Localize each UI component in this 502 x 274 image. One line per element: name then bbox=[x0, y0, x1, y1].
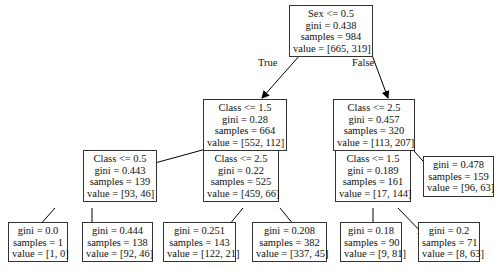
tree-node: Class <= 2.5 gini = 0.22 samples = 525 v… bbox=[203, 150, 279, 202]
tree-node-leaf: gini = 0.208 samples = 382 value = [337,… bbox=[252, 222, 327, 262]
node-samples: samples = 159 bbox=[427, 171, 490, 183]
tree-node-leaf: gini = 0.2 samples = 71 value = [8, 63] bbox=[418, 222, 480, 262]
tree-node-leaf: gini = 0.444 samples = 138 value = [92, … bbox=[82, 222, 153, 262]
node-samples: samples = 1 bbox=[12, 237, 64, 249]
node-gini: gini = 0.2 bbox=[422, 225, 476, 237]
node-samples: samples = 138 bbox=[86, 237, 149, 249]
node-gini: gini = 0.478 bbox=[427, 159, 490, 171]
tree-node: Class <= 2.5 gini = 0.457 samples = 320 … bbox=[333, 99, 415, 151]
node-samples: samples = 664 bbox=[207, 125, 283, 137]
node-split: Sex <= 0.5 bbox=[293, 8, 369, 20]
node-value: value = [459, 66] bbox=[207, 188, 275, 200]
edge-label-true: True bbox=[258, 57, 277, 68]
node-gini: gini = 0.208 bbox=[256, 225, 323, 237]
node-gini: gini = 0.443 bbox=[87, 165, 153, 177]
node-value: value = [665, 319] bbox=[293, 43, 369, 55]
tree-node-leaf: gini = 0.18 samples = 90 value = [9, 81] bbox=[340, 222, 402, 262]
node-samples: samples = 71 bbox=[422, 237, 476, 249]
node-value: value = [552, 112] bbox=[207, 137, 283, 149]
node-value: value = [17, 144] bbox=[339, 188, 407, 200]
tree-node: Class <= 1.5 gini = 0.28 samples = 664 v… bbox=[203, 99, 287, 151]
node-gini: gini = 0.28 bbox=[207, 114, 283, 126]
node-split: Class <= 2.5 bbox=[337, 102, 411, 114]
node-value: value = [337, 45] bbox=[256, 248, 323, 260]
node-gini: gini = 0.444 bbox=[86, 225, 149, 237]
node-split: Class <= 2.5 bbox=[207, 153, 275, 165]
node-gini: gini = 0.438 bbox=[293, 20, 369, 32]
node-gini: gini = 0.0 bbox=[12, 225, 64, 237]
tree-node-leaf: gini = 0.0 samples = 1 value = [1, 0] bbox=[8, 222, 68, 262]
node-split: Class <= 0.5 bbox=[87, 153, 153, 165]
node-value: value = [122, 21] bbox=[167, 248, 232, 260]
node-samples: samples = 143 bbox=[167, 237, 232, 249]
tree-node-leaf: gini = 0.478 samples = 159 value = [96, … bbox=[423, 156, 494, 197]
node-value: value = [96, 63] bbox=[427, 182, 490, 194]
node-samples: samples = 320 bbox=[337, 125, 411, 137]
edge-label-false: False bbox=[352, 57, 374, 68]
node-samples: samples = 90 bbox=[344, 237, 398, 249]
node-samples: samples = 161 bbox=[339, 176, 407, 188]
node-value: value = [1, 0] bbox=[12, 248, 64, 260]
node-gini: gini = 0.457 bbox=[337, 114, 411, 126]
node-gini: gini = 0.22 bbox=[207, 165, 275, 177]
node-value: value = [113, 207] bbox=[337, 137, 411, 149]
node-split: Class <= 1.5 bbox=[339, 153, 407, 165]
tree-node-root: Sex <= 0.5 gini = 0.438 samples = 984 va… bbox=[289, 5, 373, 57]
node-value: value = [9, 81] bbox=[344, 248, 398, 260]
node-samples: samples = 984 bbox=[293, 31, 369, 43]
node-gini: gini = 0.251 bbox=[167, 225, 232, 237]
node-samples: samples = 139 bbox=[87, 176, 153, 188]
node-value: value = [8, 63] bbox=[422, 248, 476, 260]
tree-node: Class <= 1.5 gini = 0.189 samples = 161 … bbox=[335, 150, 411, 202]
node-samples: samples = 525 bbox=[207, 176, 275, 188]
node-gini: gini = 0.189 bbox=[339, 165, 407, 177]
node-gini: gini = 0.18 bbox=[344, 225, 398, 237]
node-value: value = [92, 46] bbox=[86, 248, 149, 260]
tree-node-leaf: gini = 0.251 samples = 143 value = [122,… bbox=[163, 222, 236, 262]
node-value: value = [93, 46] bbox=[87, 188, 153, 200]
tree-node: Class <= 0.5 gini = 0.443 samples = 139 … bbox=[83, 150, 157, 202]
node-samples: samples = 382 bbox=[256, 237, 323, 249]
node-split: Class <= 1.5 bbox=[207, 102, 283, 114]
